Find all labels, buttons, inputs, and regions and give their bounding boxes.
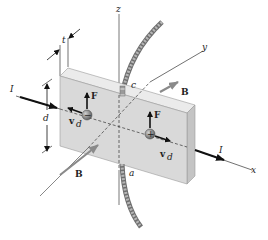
current-label-right: I bbox=[218, 145, 223, 155]
thickness-arrow-right bbox=[69, 29, 80, 38]
drift-velocity-sub-left: d bbox=[76, 119, 82, 129]
hall-effect-diagram: z y B t c B d I I x − F v d bbox=[0, 0, 268, 240]
magnetic-field-arrow-upper bbox=[160, 82, 178, 92]
point-c-label: c bbox=[131, 80, 136, 90]
point-a-label: a bbox=[129, 168, 134, 178]
x-axis-label: x bbox=[251, 165, 256, 175]
current-arrow-in bbox=[20, 97, 57, 108]
strip-contact-c bbox=[120, 86, 125, 96]
height-label: d bbox=[43, 113, 49, 123]
y-axis-back bbox=[150, 51, 203, 82]
field-label-lower: B bbox=[75, 169, 83, 179]
y-axis-label: y bbox=[201, 42, 208, 52]
negative-charge-sign: − bbox=[84, 110, 92, 120]
force-label-right: F bbox=[154, 110, 161, 120]
drift-velocity-label-left: v bbox=[68, 116, 75, 126]
drift-velocity-sub-right: d bbox=[167, 152, 173, 162]
thickness-label: t bbox=[62, 35, 66, 45]
connecting-strip-upper bbox=[122, 22, 162, 95]
force-label-left: F bbox=[91, 91, 98, 101]
drift-velocity-label-right: v bbox=[159, 149, 166, 159]
current-label-left: I bbox=[9, 84, 14, 94]
positive-charge-sign: + bbox=[147, 129, 155, 139]
thickness-arrow-left bbox=[47, 50, 59, 60]
field-label-upper: B bbox=[181, 87, 189, 97]
plate-side-face bbox=[187, 105, 195, 184]
z-axis-label: z bbox=[115, 4, 121, 14]
